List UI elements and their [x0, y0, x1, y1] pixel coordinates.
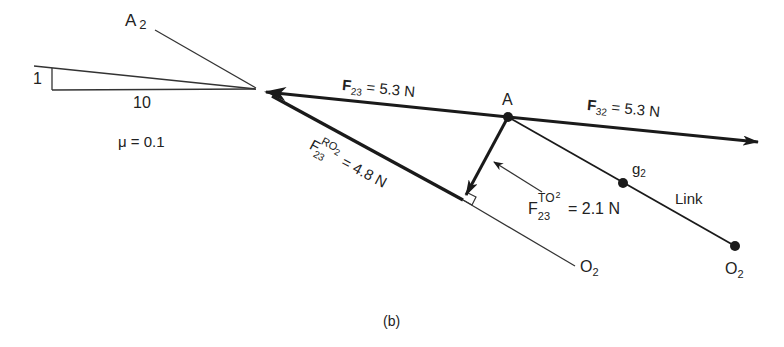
point-a-dot [503, 112, 513, 122]
f23-to2-sup-sub: 2 [555, 190, 560, 200]
f23-to2-sup: TO [538, 191, 554, 205]
figure-caption: (b) [383, 313, 400, 329]
o2-lower-label: O2 [580, 258, 599, 276]
link-label: Link [675, 190, 703, 207]
point-a-label: A [502, 91, 513, 109]
to2-leader-arrow [494, 162, 542, 192]
f23-to2-label: F23TO2 = 2.1 N [528, 200, 628, 218]
slope-triangle [34, 66, 256, 90]
f23-to2-value: = 2.1 N [564, 200, 620, 217]
f23-to2-main: F [528, 200, 538, 217]
f23-to2-sub: 23 [538, 210, 550, 222]
f32-sub: 32 [595, 106, 607, 118]
o2-lower-sub: 2 [592, 266, 598, 278]
f23-sub: 23 [350, 86, 362, 98]
o2-right-sub: 2 [737, 268, 743, 280]
a2-main: A [125, 11, 136, 30]
f23-ro2-vector [272, 96, 463, 200]
friction-label: μ = 0.1 [118, 133, 165, 150]
o2-lower-main: O [580, 258, 592, 275]
g2-label: g2 [632, 160, 646, 177]
f23-to2-vector [466, 117, 508, 195]
a2-label: A2 [125, 11, 144, 31]
a2-sub: 2 [139, 17, 146, 32]
slope-run-label: 10 [133, 94, 151, 112]
a2-line [155, 30, 256, 88]
o2-right-main: O [725, 260, 737, 277]
point-g2-dot [618, 178, 628, 188]
g2-sub: 2 [640, 168, 646, 179]
point-o2-dot [730, 241, 740, 251]
force-diagram [0, 0, 784, 347]
o2-right-label: O2 [725, 260, 744, 278]
slope-rise-label: 1 [33, 70, 42, 88]
